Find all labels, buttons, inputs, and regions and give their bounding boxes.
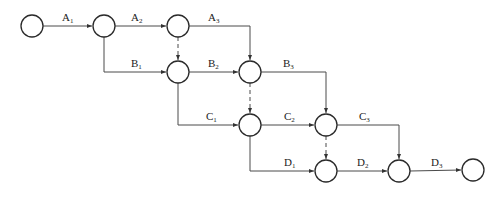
label-B2: B2 xyxy=(208,57,219,71)
label-D2: D2 xyxy=(357,156,369,170)
node-8 xyxy=(315,160,337,182)
label-A1: A1 xyxy=(62,11,74,25)
node-6 xyxy=(239,114,261,136)
label-A3: A3 xyxy=(208,11,220,25)
label-C3: C3 xyxy=(359,110,370,124)
label-C1: C1 xyxy=(206,110,217,124)
node-3 xyxy=(167,15,189,37)
label-B3: B3 xyxy=(283,57,294,71)
network-diagram: A1 A2 A3 B1 B2 B3 C1 C2 C3 D1 D2 D3 xyxy=(0,0,499,198)
label-C2: C2 xyxy=(284,110,295,124)
node-1 xyxy=(21,15,43,37)
edge-D1 xyxy=(250,136,314,171)
edge-B3 xyxy=(261,72,326,113)
node-4 xyxy=(167,61,189,83)
node-5 xyxy=(239,61,261,83)
label-D1: D1 xyxy=(284,156,296,170)
edge-C3 xyxy=(337,125,399,159)
label-D3: D3 xyxy=(431,156,443,170)
node-10 xyxy=(462,159,484,181)
label-B1: B1 xyxy=(131,57,142,71)
node-7 xyxy=(315,114,337,136)
edge-D3 xyxy=(410,170,461,171)
edge-A3 xyxy=(189,26,250,60)
node-9 xyxy=(388,160,410,182)
node-2 xyxy=(93,15,115,37)
label-A2: A2 xyxy=(131,11,143,25)
